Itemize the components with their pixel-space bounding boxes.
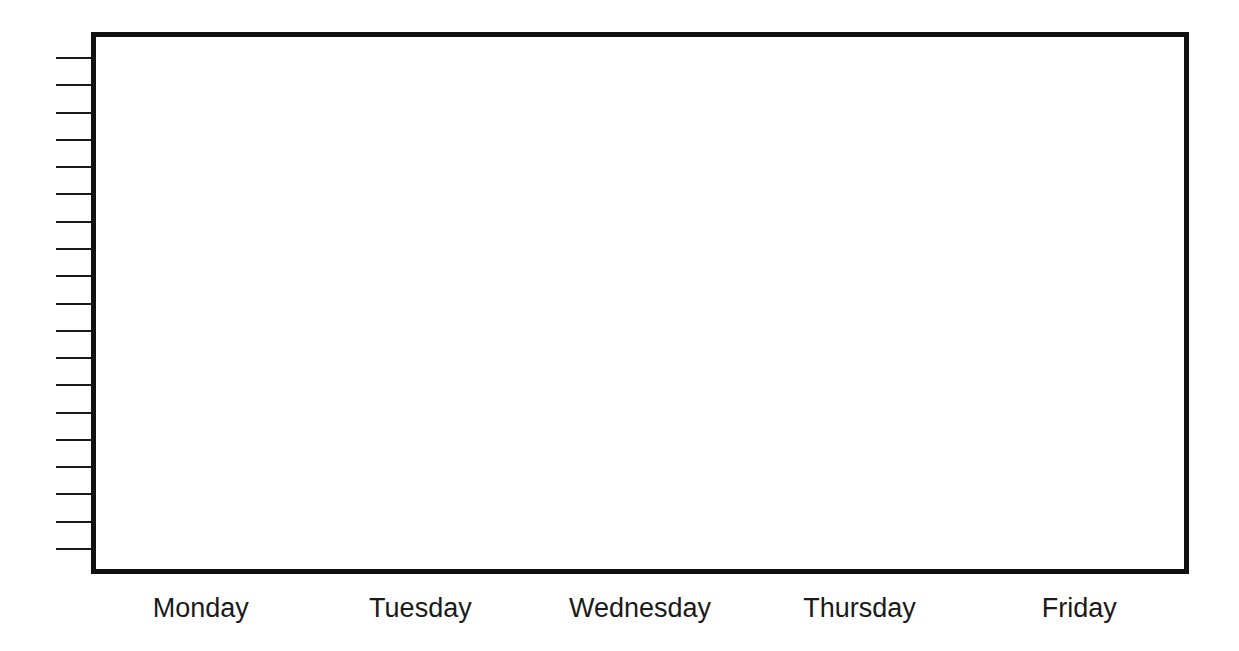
x-label-monday: Monday <box>91 588 311 628</box>
x-label-tuesday: Tuesday <box>311 588 531 628</box>
x-label-wednesday: Wednesday <box>530 588 750 628</box>
plot-area <box>91 32 1189 574</box>
x-label-thursday: Thursday <box>750 588 970 628</box>
x-label-friday: Friday <box>969 588 1189 628</box>
x-axis-labels: Monday Tuesday Wednesday Thursday Friday <box>91 588 1189 628</box>
